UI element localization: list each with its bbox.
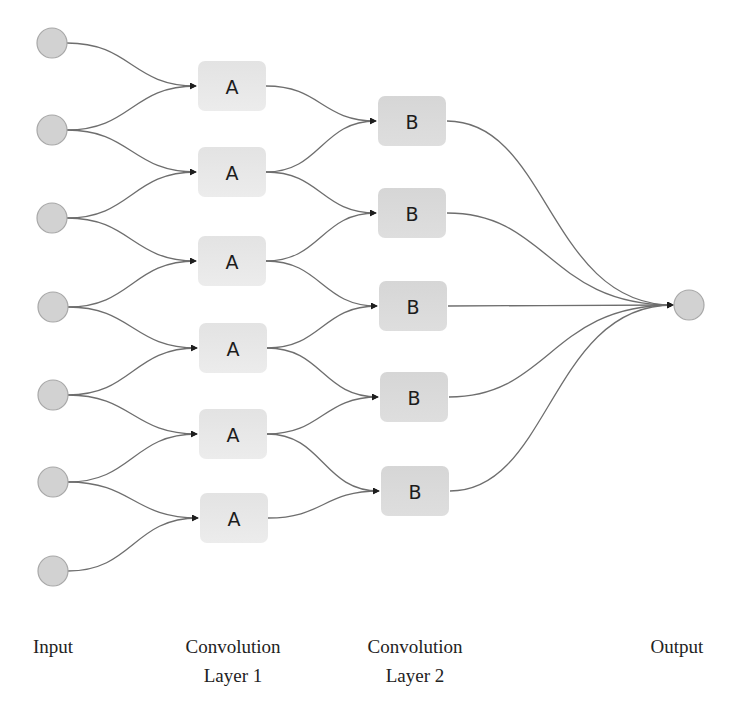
input-node — [38, 556, 68, 586]
layer1-box: A — [198, 61, 266, 111]
layer1-box-label: A — [226, 162, 239, 184]
conv1-label-line1: Convolution — [163, 632, 303, 661]
layer2-box: B — [378, 96, 446, 146]
edge — [267, 397, 378, 434]
edge — [266, 86, 376, 121]
input-label: Input — [22, 632, 84, 661]
layer1-box: A — [200, 493, 268, 543]
layer2-box-label: B — [407, 387, 420, 409]
input-nodes — [37, 28, 68, 586]
convolution-layer-2-label: Convolution Layer 2 — [345, 632, 485, 690]
conv1-label-line2: Layer 1 — [163, 661, 303, 690]
layer1-box: A — [199, 409, 267, 459]
layer2-box: B — [379, 281, 447, 331]
layer2-box-label: B — [406, 296, 419, 318]
edge — [267, 434, 379, 491]
edge — [68, 261, 196, 307]
edge — [68, 348, 197, 395]
edge — [67, 172, 196, 218]
edge — [448, 305, 673, 306]
convolution-layer-1-boxes: AAAAAA — [198, 61, 268, 543]
edge — [449, 305, 673, 397]
layer2-box: B — [378, 188, 446, 238]
layer1-box-label: A — [227, 338, 240, 360]
output-label-text: Output — [651, 636, 704, 657]
edge — [68, 518, 198, 571]
edge — [68, 395, 197, 434]
edge — [68, 482, 198, 518]
layer1-to-layer2-edges — [266, 86, 379, 518]
input-node — [38, 467, 68, 497]
edge — [266, 121, 376, 172]
edge — [267, 348, 378, 397]
edge — [266, 172, 376, 213]
layer2-box-label: B — [405, 203, 418, 225]
edge — [267, 306, 377, 348]
input-node — [38, 380, 68, 410]
output-node-group — [674, 290, 704, 320]
edge — [67, 43, 196, 86]
layer2-box: B — [380, 372, 448, 422]
edge — [266, 213, 376, 261]
input-node — [38, 292, 68, 322]
layer2-to-output-edges — [447, 121, 673, 491]
input-node — [37, 115, 67, 145]
convolution-layer-1-label: Convolution Layer 1 — [163, 632, 303, 690]
layer1-box-label: A — [227, 424, 240, 446]
conv2-label-line1: Convolution — [345, 632, 485, 661]
layer1-box: A — [198, 236, 266, 286]
edge — [67, 218, 196, 261]
layer1-box-label: A — [228, 508, 241, 530]
layer1-box: A — [199, 323, 267, 373]
edge — [450, 305, 673, 491]
input-label-text: Input — [33, 636, 73, 657]
convolution-layer-2-boxes: BBBBB — [378, 96, 449, 516]
layer1-box-label: A — [226, 251, 239, 273]
layer2-box-label: B — [405, 111, 418, 133]
edge — [447, 121, 673, 305]
layer1-box-label: A — [226, 76, 239, 98]
edge — [67, 86, 196, 130]
layer2-box-label: B — [408, 481, 421, 503]
layer2-box: B — [381, 466, 449, 516]
edge — [68, 307, 197, 348]
layer1-box: A — [198, 147, 266, 197]
input-node — [37, 28, 67, 58]
edge — [266, 261, 377, 306]
conv2-label-line2: Layer 2 — [345, 661, 485, 690]
cnn-diagram: AAAAAA BBBBB — [0, 0, 739, 719]
input-node — [37, 203, 67, 233]
edge — [268, 491, 379, 518]
output-node — [674, 290, 704, 320]
output-label: Output — [636, 632, 718, 661]
input-to-layer1-edges — [67, 43, 198, 571]
edge — [67, 130, 196, 172]
edge — [68, 434, 197, 482]
